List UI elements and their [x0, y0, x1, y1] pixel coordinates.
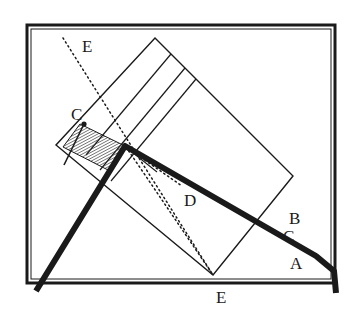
label-e-bottom: E: [216, 289, 226, 306]
label-c: C: [71, 106, 82, 123]
label-c2: C: [283, 228, 294, 245]
label-d: D: [184, 192, 196, 209]
dotted-ray-inner: [126, 147, 213, 275]
label-b: B: [289, 210, 300, 227]
figure-canvas: ECDBCAE: [0, 0, 354, 318]
label-a: A: [290, 255, 302, 272]
label-e-top: E: [82, 38, 92, 55]
